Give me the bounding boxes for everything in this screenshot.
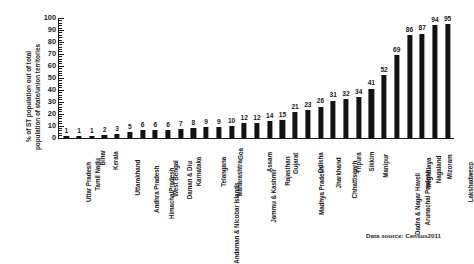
bar-slot: 9 [213,18,226,138]
bar-value-label: 12 [241,115,248,122]
x-axis-category-label: Jammu & Kashmir [271,169,277,223]
bar-slot: 23 [301,18,314,138]
bar-value-label: 15 [279,112,286,119]
bar-slot: 1 [85,18,98,138]
x-axis-category-label: Kerala [114,151,120,170]
bar-value-label: 1 [65,128,69,135]
x-axis-category-label: Goa [238,148,244,160]
bar [343,99,348,137]
x-axis-category-label: West Bengal [174,160,180,197]
bar-value-label: 3 [115,126,119,133]
bar-value-label: 9 [204,119,208,126]
bar-value-label: 31 [330,92,337,99]
bar-value-label: 8 [192,120,196,127]
x-axis-category-label: Uttar Pradesh [86,162,92,202]
bar-value-label: 6 [141,122,145,129]
bar [115,134,120,138]
bar-slot: 87 [416,18,429,138]
bar-value-label: 7 [179,121,183,128]
bar [331,101,336,138]
plot-area: 1112356667899101212141521232631323441526… [58,18,454,139]
bar-value-label: 1 [77,128,81,135]
x-axis-category-label: Andhra Pradesh [154,166,160,213]
bar-slot: 6 [149,18,162,138]
bar-slot: 2 [98,18,111,138]
bar [381,75,386,137]
bar-value-label: 26 [317,98,324,105]
bar-slot: 15 [276,18,289,138]
x-axis-category-label: Odisha [318,152,324,173]
bar [394,55,399,138]
x-axis-category-label: Jharkhand [336,157,342,188]
bar [127,132,132,138]
x-axis-category-label: Daman & Diu [187,161,193,199]
bar [229,126,234,138]
x-axis-category-label: Mizoram [447,154,453,179]
bar-slot: 34 [352,18,365,138]
bar [204,127,209,138]
bar [369,89,374,138]
bar-value-label: 1 [90,128,94,135]
bar-slot: 9 [200,18,213,138]
bar-slot: 86 [403,18,416,138]
bar-slot: 95 [441,18,454,138]
x-axis-category-label: Bihar [100,150,106,166]
bar [445,24,450,138]
bar [64,136,69,137]
bar-slot: 32 [340,18,353,138]
bar-value-label: 6 [153,122,157,129]
x-axis-category-label: Dadra & Nagar Haveli [415,173,421,235]
bar-value-label: 32 [342,91,349,98]
bar-value-label: 23 [304,102,311,109]
y-axis-tick-label: 80 [48,38,56,45]
bar-slot: 8 [187,18,200,138]
bar [153,130,158,137]
bar-value-label: 86 [406,27,413,34]
x-axis-category-label: Madhya Pradesh [319,166,325,215]
bar [242,123,247,137]
bar-value-label: 5 [128,124,132,131]
y-axis-tick-label: 10 [48,122,56,129]
bar-value-label: 21 [291,104,298,111]
bar-slot: 12 [251,18,264,138]
y-axis-tick-label: 70 [48,50,56,57]
bar-value-label: 95 [444,16,451,23]
y-axis-tick-label: 60 [48,62,56,69]
bar-value-label: 2 [103,127,107,134]
bar [356,97,361,138]
bar [140,130,145,137]
bar [318,107,323,138]
x-axis-category-label: Rajasthan [284,157,290,186]
x-axis-category-label: Uttarakhand [135,160,141,196]
x-axis-line [58,138,454,139]
bar-value-label: 12 [253,115,260,122]
bar [280,120,285,138]
bar-slot: 10 [225,18,238,138]
bar-slot: 7 [174,18,187,138]
x-axis-category-label: Maharashtra [237,160,243,196]
y-axis-tick-label: 50 [48,74,56,81]
bar-value-label: 9 [217,119,221,126]
bar-slot: 26 [314,18,327,138]
bar-series: 1112356667899101212141521232631323441526… [60,18,454,138]
bar [216,127,221,138]
bar-slot: 94 [429,18,442,138]
bar-slot: 31 [327,18,340,138]
bar-value-label: 52 [380,67,387,74]
x-axis-category-label: Gujarat [293,153,299,174]
bar-slot: 52 [378,18,391,138]
x-axis-category-label: Tripura [356,152,362,173]
bar [432,25,437,137]
bar [267,121,272,138]
bar-value-label: 34 [355,89,362,96]
bar [76,136,81,137]
bar-value-label: 14 [266,113,273,120]
bar-slot: 6 [136,18,149,138]
x-axis-category-label: Manipur [383,154,389,178]
bar-slot: 21 [289,18,302,138]
bar-slot: 12 [238,18,251,138]
bar-slot: 1 [73,18,86,138]
bar [102,135,107,137]
bar-value-label: 69 [393,47,400,54]
y-axis-tick-label: 20 [48,110,56,117]
